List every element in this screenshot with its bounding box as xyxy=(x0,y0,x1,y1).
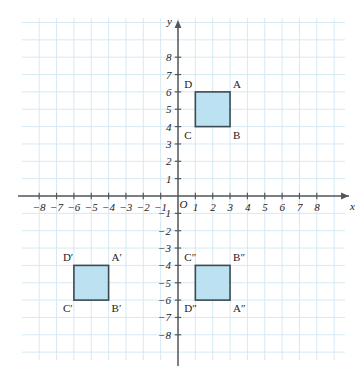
x-tick-label: −6 xyxy=(67,202,80,213)
y-tick-label: −4 xyxy=(158,260,171,271)
y-axis-arrowhead xyxy=(175,20,182,28)
y-tick-label: 6 xyxy=(166,87,172,98)
y-tick-label: 3 xyxy=(166,139,172,150)
y-tick-label: −3 xyxy=(158,243,171,254)
vertex-label-D-double-prime: D″ xyxy=(184,303,197,314)
x-tick-label: 5 xyxy=(262,202,268,213)
x-tick-label: 1 xyxy=(193,202,199,213)
y-tick-label: −7 xyxy=(158,312,171,323)
y-tick-label: −1 xyxy=(158,208,171,219)
y-tick-label: 5 xyxy=(166,104,172,115)
y-axis-name: y xyxy=(167,16,172,27)
x-tick-label: −5 xyxy=(85,202,98,213)
x-axis-name: x xyxy=(350,201,355,212)
y-tick-label: 4 xyxy=(166,122,172,133)
square-abcd-double-prime xyxy=(195,265,230,300)
x-tick-label: 2 xyxy=(210,202,216,213)
x-tick-label: −3 xyxy=(119,202,132,213)
coordinate-plane-figure: −8−7−6−5−4−3−2−11234567887654321−1−2−3−4… xyxy=(0,0,360,374)
x-tick-label: −2 xyxy=(137,202,150,213)
x-tick-label: −7 xyxy=(50,202,63,213)
vertex-label-A-prime: A′ xyxy=(112,252,122,263)
x-tick-label: 4 xyxy=(245,202,251,213)
x-tick-label: 6 xyxy=(280,202,286,213)
vertex-label-B: B xyxy=(233,130,240,141)
x-tick-label: 3 xyxy=(228,202,234,213)
y-tick-label: 2 xyxy=(166,156,172,167)
vertex-label-C: C xyxy=(184,130,191,141)
square-abcd-prime xyxy=(74,265,109,300)
y-tick-label: 7 xyxy=(166,70,172,81)
x-tick-label: −8 xyxy=(33,202,46,213)
vertex-label-D: D xyxy=(184,79,192,90)
vertex-label-D-prime: D′ xyxy=(63,252,73,263)
vertex-label-B-prime: B′ xyxy=(112,303,122,314)
y-tick-label: −5 xyxy=(158,278,171,289)
y-tick-label: −2 xyxy=(158,226,171,237)
vertex-label-A-double-prime: A″ xyxy=(233,303,246,314)
x-tick-label: −4 xyxy=(102,202,115,213)
vertex-label-C-prime: C′ xyxy=(63,303,73,314)
y-tick-label: 1 xyxy=(166,174,172,185)
y-tick-label: 8 xyxy=(166,52,172,63)
x-axis-arrowhead xyxy=(341,193,349,200)
coordinate-plane-svg xyxy=(0,0,360,374)
vertex-label-C-double-prime: C″ xyxy=(184,252,196,263)
x-tick-label: 7 xyxy=(297,202,303,213)
vertex-label-B-double-prime: B″ xyxy=(233,252,245,263)
y-tick-label: −6 xyxy=(158,295,171,306)
origin-label: O xyxy=(180,199,188,210)
x-tick-label: 8 xyxy=(314,202,320,213)
square-abcd xyxy=(195,92,230,127)
y-tick-label: −8 xyxy=(158,330,171,341)
vertex-label-A: A xyxy=(233,79,241,90)
